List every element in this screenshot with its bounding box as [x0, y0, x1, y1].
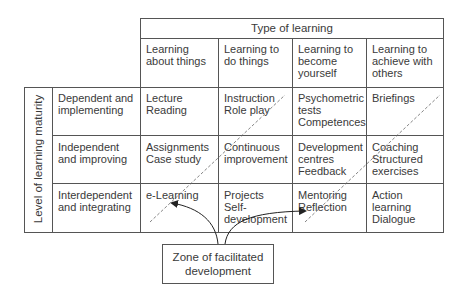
zone-boundary-right	[305, 95, 440, 222]
arrow-to-elearning	[172, 203, 218, 244]
zone-boundary-left	[150, 95, 285, 222]
zone-label: Zone of facilitated development	[173, 251, 264, 277]
arrow-to-mentoring	[225, 211, 305, 244]
zone-of-facilitated-development-box: Zone of facilitated development	[162, 244, 274, 284]
